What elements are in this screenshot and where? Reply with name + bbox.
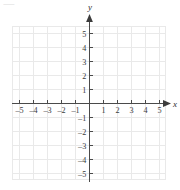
y-tick-label: 5 — [82, 30, 86, 39]
y-tick-label: –4 — [77, 156, 86, 165]
y-tick-label: –5 — [77, 170, 86, 179]
axis-arrowheads-group — [86, 14, 171, 107]
scan-artifact-mark: ⸺ — [3, 1, 11, 7]
x-tick-label: –2 — [56, 106, 65, 115]
x-axis-label: x — [172, 99, 177, 109]
x-tick-label: 5 — [157, 106, 161, 115]
y-tick-label: 4 — [82, 44, 86, 53]
y-tick-label: –3 — [77, 142, 86, 151]
axes-group — [12, 22, 163, 182]
y-tick-label: 1 — [82, 86, 86, 95]
x-tick-label: –4 — [28, 106, 37, 115]
coordinate-plane-figure: ⸺ –5–4–3–2–112345–5–4–3–2–112345 xy — [0, 0, 180, 190]
y-tick-label: –1 — [77, 114, 86, 123]
x-tick-label: 1 — [101, 106, 105, 115]
coordinate-grid-svg: –5–4–3–2–112345–5–4–3–2–112345 xy — [0, 0, 180, 190]
x-axis-arrowhead — [163, 100, 171, 107]
x-tick-label: –5 — [14, 106, 23, 115]
y-axis-arrowhead — [86, 14, 93, 22]
grid-lines-group — [12, 26, 166, 180]
y-tick-label: –2 — [77, 128, 86, 137]
x-tick-label: 3 — [129, 106, 133, 115]
y-tick-label: 2 — [82, 72, 86, 81]
y-axis-label: y — [87, 2, 92, 12]
x-tick-label: 4 — [143, 106, 147, 115]
x-tick-label: 2 — [115, 106, 119, 115]
x-tick-label: –3 — [42, 106, 51, 115]
y-tick-label: 3 — [82, 58, 86, 67]
